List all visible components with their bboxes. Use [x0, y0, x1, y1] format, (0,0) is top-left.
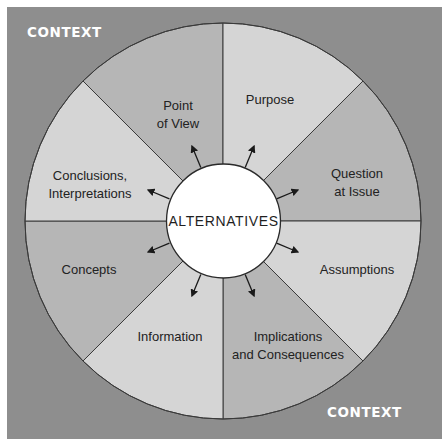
segment-label-line: Conclusions, [53, 168, 127, 183]
elements-of-thought-diagram: ALTERNATIVES Pointof ViewPurposeQuestion… [0, 0, 448, 444]
context-label-top-left: CONTEXT [27, 24, 102, 40]
segment-label-line: at Issue [334, 184, 380, 199]
segment-label-line: Assumptions [320, 262, 395, 277]
segment-label-line: Interpretations [48, 186, 132, 201]
segment-label-line: Information [137, 329, 202, 344]
segment-label-assumptions: Assumptions [320, 262, 395, 277]
center-label: ALTERNATIVES [168, 213, 278, 229]
segment-label-line: Point [163, 98, 193, 113]
segment-label-line: of View [157, 116, 200, 131]
segment-label-concepts: Concepts [62, 262, 117, 277]
segment-label-line: Purpose [246, 92, 294, 107]
segment-label-line: Implications [254, 329, 323, 344]
segment-label-line: Question [331, 166, 383, 181]
context-label-bottom-right: CONTEXT [327, 404, 402, 420]
segment-label-information: Information [137, 329, 202, 344]
segment-label-purpose: Purpose [246, 92, 294, 107]
segment-label-line: Concepts [62, 262, 117, 277]
segment-label-line: and Consequences [232, 347, 345, 362]
